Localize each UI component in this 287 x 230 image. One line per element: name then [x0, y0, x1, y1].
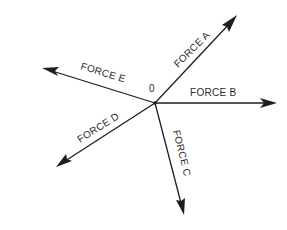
force-b-label: FORCE B [190, 87, 237, 98]
arrowhead-icon [42, 67, 59, 76]
origin-label: 0 [149, 83, 155, 94]
force-c-label: FORCE C [171, 129, 193, 177]
force-b-vector: FORCE B [155, 87, 277, 108]
force-d-vector: FORCE D [56, 103, 155, 167]
force-c-vector: FORCE C [155, 103, 193, 215]
origin-point [153, 101, 157, 105]
force-e-vector: FORCE E [42, 60, 155, 103]
arrowhead-icon [56, 154, 72, 167]
force-diagram: FORCE A FORCE B FORCE C FORCE D FORCE E … [0, 0, 287, 230]
force-e-label: FORCE E [79, 60, 127, 84]
